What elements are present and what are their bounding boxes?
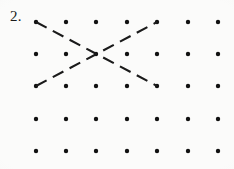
- worksheet-page: 2.: [0, 0, 234, 169]
- dashed-line-layer: [0, 0, 234, 169]
